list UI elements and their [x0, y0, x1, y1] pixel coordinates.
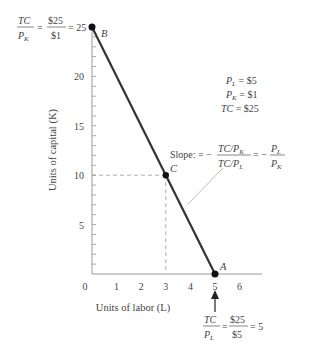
x-tick-1: 1 [114, 281, 119, 292]
point-a [212, 271, 219, 278]
svg-text:=: = [37, 22, 43, 33]
y-ticks [92, 37, 96, 264]
x-tick-2: 2 [139, 281, 144, 292]
svg-text:TC: TC [18, 15, 31, 26]
svg-text:PK: PK [17, 30, 29, 43]
slope-leader [187, 168, 223, 205]
x-tick-3: 3 [163, 281, 168, 292]
y-tick-15: 15 [74, 121, 84, 132]
y-tick-20: 20 [74, 71, 84, 82]
x-tick-6: 6 [237, 281, 242, 292]
svg-text:= 5: = 5 [250, 321, 263, 332]
svg-text:PL = $5: PL = $5 [225, 75, 257, 88]
point-c [163, 172, 169, 178]
x-tick-4: 4 [188, 281, 193, 292]
point-b [89, 24, 96, 31]
svg-text:$5: $5 [232, 329, 242, 340]
y-tick-10: 10 [74, 170, 84, 181]
svg-text:TC = $25: TC = $25 [221, 103, 259, 114]
x-tick-0: 0 [83, 281, 88, 292]
svg-text:PK = $1: PK = $1 [225, 89, 257, 102]
y-axis-title: Units of capital (K) [47, 109, 59, 191]
svg-text:PK: PK [270, 158, 282, 171]
parameters: PL = $5 PK = $1 TC = $25 [221, 75, 259, 114]
point-b-label: B [101, 28, 108, 39]
y-intercept-formula: TC PK = $25 $1 = 25 [17, 15, 86, 43]
slope-formula: Slope: = − TC/PK TC/PL = − PL PK [170, 143, 285, 171]
svg-text:PL: PL [203, 329, 214, 342]
x-axis-title: Units of labor (L) [96, 302, 171, 314]
svg-text:TC: TC [204, 314, 217, 325]
svg-text:$25: $25 [48, 15, 63, 26]
x-intercept-formula: TC PL = $25 $5 = 5 [203, 314, 263, 342]
svg-text:$1: $1 [51, 30, 61, 41]
point-c-label: C [170, 163, 178, 174]
point-a-label: A [219, 261, 227, 272]
y-tick-5: 5 [79, 220, 84, 231]
svg-text:TC/PK: TC/PK [218, 143, 244, 156]
svg-text:=: = [222, 321, 228, 332]
svg-text:$25: $25 [230, 314, 245, 325]
svg-text:= −: = − [253, 149, 267, 160]
svg-text:= 25: = 25 [68, 22, 86, 33]
svg-text:Slope: = −: Slope: = − [170, 149, 212, 160]
svg-text:PL: PL [270, 143, 281, 156]
isocost-chart: 5 10 15 20 0 1 2 3 4 5 6 Units of labor … [0, 0, 321, 354]
